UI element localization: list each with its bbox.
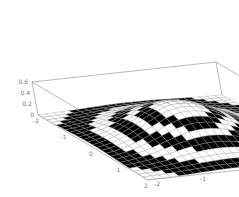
x-tick-label: 0 bbox=[89, 150, 93, 157]
surface-plot: 00.20.40.6-2-1012-2-1012 bbox=[0, 0, 239, 197]
x-tick-label: 2 bbox=[144, 182, 148, 189]
surface-mesh bbox=[38, 95, 239, 180]
x-tick-label: -1 bbox=[61, 133, 67, 140]
x-tick-label: 1 bbox=[117, 166, 121, 173]
x-tick-label: -2 bbox=[33, 117, 39, 124]
z-tick-label: 0.2 bbox=[22, 100, 32, 107]
box-edge bbox=[216, 62, 222, 95]
z-tick-label: 0.4 bbox=[20, 89, 30, 96]
z-tick-label: 0.6 bbox=[18, 78, 28, 85]
y-tick-label: -1 bbox=[200, 175, 206, 182]
y-tick-label: -2 bbox=[154, 180, 160, 187]
box-edge bbox=[32, 62, 216, 82]
